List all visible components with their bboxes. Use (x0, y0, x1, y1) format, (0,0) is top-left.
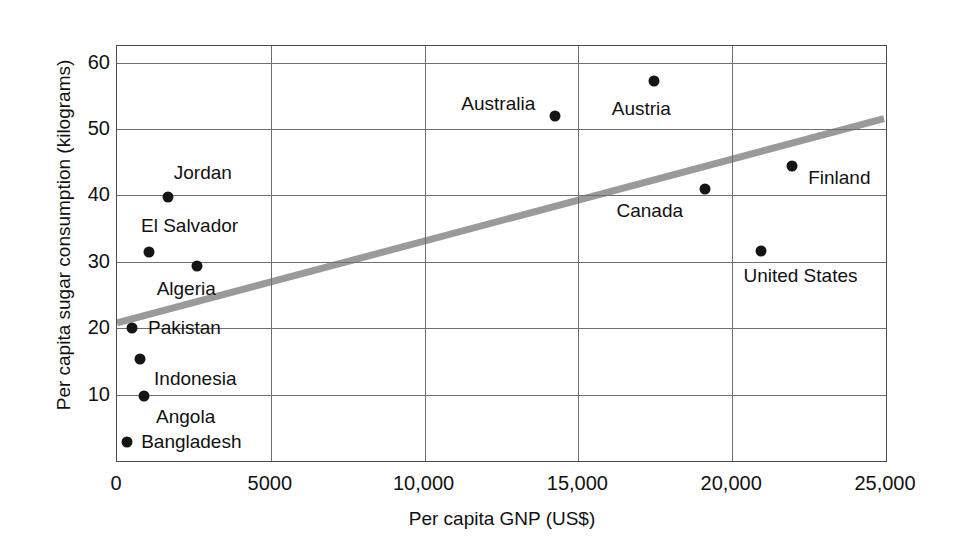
y-axis-tick-labels: 102030405060 (60, 45, 110, 462)
y-tick-label: 30 (64, 249, 110, 272)
data-point (139, 390, 150, 401)
gridline-horizontal (117, 129, 886, 130)
data-point (122, 437, 133, 448)
x-tick-label: 5000 (210, 472, 330, 495)
gridline-horizontal (117, 262, 886, 263)
data-point-label: Angola (156, 406, 215, 428)
data-point (787, 160, 798, 171)
data-point (648, 75, 659, 86)
data-point (191, 261, 202, 272)
data-point (162, 191, 173, 202)
y-tick-label: 60 (64, 50, 110, 73)
y-tick-label: 40 (64, 183, 110, 206)
x-tick-label: 15,000 (517, 472, 637, 495)
data-point-label: El Salvador (141, 215, 238, 237)
plot-area: BangladeshAngolaIndonesiaPakistanEl Salv… (116, 45, 887, 462)
data-point-label: Jordan (174, 162, 232, 184)
data-point-label: Australia (461, 93, 535, 115)
data-point-label: Canada (617, 200, 684, 222)
x-tick-label: 0 (56, 472, 176, 495)
gridline-horizontal (117, 395, 886, 396)
data-point-label: Bangladesh (141, 431, 241, 453)
y-tick-label: 50 (64, 117, 110, 140)
x-axis-title: Per capita GNP (US$) (116, 508, 888, 530)
data-point-label: Pakistan (148, 317, 221, 339)
data-point-label: Finland (808, 167, 870, 189)
scatter-chart-figure: Per capita sugar consumption (kilograms)… (0, 0, 961, 555)
gridline-horizontal (117, 328, 886, 329)
x-tick-label: 25,000 (825, 472, 945, 495)
gridline-horizontal (117, 195, 886, 196)
data-point-label: Indonesia (154, 368, 236, 390)
gridline-vertical (732, 46, 733, 461)
data-point-label: Algeria (157, 278, 216, 300)
data-point-label: United States (743, 265, 857, 287)
data-point-label: Austria (612, 98, 671, 120)
data-point (550, 111, 561, 122)
gridline-vertical (271, 46, 272, 461)
data-point (127, 322, 138, 333)
gridline-vertical (578, 46, 579, 461)
data-point (135, 353, 146, 364)
x-tick-label: 10,000 (364, 472, 484, 495)
y-tick-label: 20 (64, 316, 110, 339)
y-tick-label: 10 (64, 382, 110, 405)
x-tick-label: 20,000 (671, 472, 791, 495)
gridline-horizontal (117, 63, 886, 64)
data-point (143, 246, 154, 257)
x-axis-tick-labels: 0500010,00015,00020,00025,000 (116, 472, 887, 502)
gridline-vertical (425, 46, 426, 461)
data-point (756, 246, 767, 257)
data-point (699, 183, 710, 194)
